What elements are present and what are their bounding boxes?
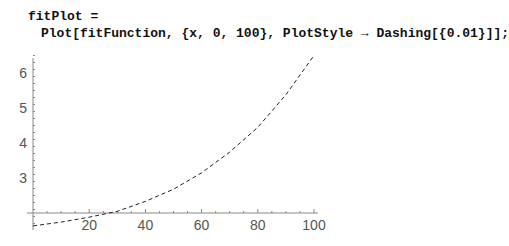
x-tick-label: 60 [194, 217, 210, 233]
x-tick-label: 40 [138, 217, 154, 233]
y-tick-label: 3 [19, 170, 27, 186]
x-tick-label: 100 [302, 217, 326, 233]
x-tick-label: 20 [81, 217, 97, 233]
y-tick-label: 5 [19, 100, 27, 116]
x-tick-label: 80 [250, 217, 266, 233]
fit-curve [33, 56, 314, 226]
axes [27, 56, 318, 231]
y-tick-label: 6 [19, 65, 27, 81]
tick-labels: 204060801003456 [19, 65, 326, 233]
y-tick-label: 4 [19, 135, 27, 151]
